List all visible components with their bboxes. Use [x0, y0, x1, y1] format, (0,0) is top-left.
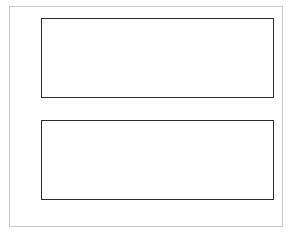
top-subplot: [41, 18, 274, 98]
bottom-subplot: [41, 120, 274, 200]
bottom-plot-line: [41, 120, 274, 200]
top-plot-line: [41, 18, 274, 98]
figure-canvas: [0, 0, 292, 234]
